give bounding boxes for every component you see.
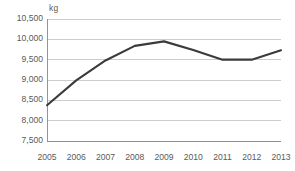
y-axis-tick-label: 7,500 bbox=[2, 136, 43, 145]
series-layer bbox=[47, 41, 281, 105]
x-axis-tick-label: 2005 bbox=[32, 152, 62, 162]
data-series-line bbox=[47, 41, 281, 105]
plot-area bbox=[47, 19, 281, 141]
plot-svg bbox=[47, 19, 281, 141]
line-chart: kg 7,5008,0008,5009,0009,50010,00010,500… bbox=[0, 0, 295, 171]
y-axis-unit-label: kg bbox=[49, 3, 58, 13]
y-axis-tick-label: 10,500 bbox=[2, 14, 43, 23]
y-axis-tick-label: 9,000 bbox=[2, 75, 43, 84]
y-axis-tick-label: 8,500 bbox=[2, 95, 43, 104]
x-axis-tick-label: 2006 bbox=[61, 152, 91, 162]
x-axis-tick-label: 2013 bbox=[266, 152, 295, 162]
x-axis-tick-label: 2009 bbox=[149, 152, 179, 162]
y-axis-tick-label: 10,000 bbox=[2, 34, 43, 43]
y-axis-tick-label: 8,000 bbox=[2, 116, 43, 125]
x-axis-tick-label: 2007 bbox=[91, 152, 121, 162]
x-axis-tick-label: 2008 bbox=[120, 152, 150, 162]
x-axis-tick-label: 2011 bbox=[208, 152, 238, 162]
y-axis-tick-label: 9,500 bbox=[2, 55, 43, 64]
x-axis-tick-label: 2012 bbox=[237, 152, 267, 162]
x-axis-tick-label: 2010 bbox=[178, 152, 208, 162]
grid-layer bbox=[47, 19, 281, 141]
